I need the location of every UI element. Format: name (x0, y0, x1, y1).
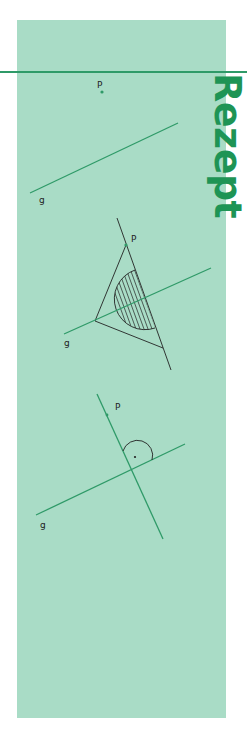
line-g (30, 123, 178, 193)
set-square-leg (95, 245, 126, 321)
point-label: P (97, 80, 103, 90)
right-angle-dot-icon (134, 456, 136, 458)
line-label: g (39, 195, 45, 205)
point-p-icon (106, 414, 109, 417)
point-p-icon (124, 243, 127, 246)
point-p-icon (100, 90, 103, 93)
line-label: g (64, 338, 70, 348)
set-square-edge (117, 218, 171, 370)
construction-drawings: P g P g (0, 0, 247, 737)
point-label: P (115, 402, 121, 412)
figure-2: P g (64, 218, 211, 370)
line-label: g (40, 520, 46, 530)
hatching (92, 230, 172, 340)
right-angle-arc-icon (123, 440, 153, 460)
figure-1: P g (30, 80, 178, 205)
figure-3: P g (36, 394, 185, 539)
point-label: P (131, 234, 137, 244)
line-g (36, 444, 185, 515)
